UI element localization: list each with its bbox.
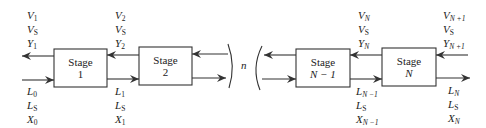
stage-n-minus-1-label: Stage N − 1 — [296, 56, 350, 80]
stage-n-title: Stage — [382, 55, 436, 67]
break-label-n: n — [241, 60, 247, 71]
stream-l1-labels: L1 LS X1 — [115, 86, 125, 128]
stage-2-number: 2 — [139, 66, 192, 78]
break-curve-right — [256, 46, 262, 90]
stream-lN-1-labels: LN −1 LS XN −1 — [356, 86, 378, 128]
stage-n-minus-1-number: N − 1 — [296, 68, 350, 80]
stage-1-title: Stage — [54, 56, 107, 68]
stage-2-label: Stage 2 — [139, 54, 192, 78]
stream-vN1-labels: VN +1 VS YN +1 — [443, 10, 465, 52]
stream-l0-labels: L0 LS X0 — [27, 86, 37, 128]
stream-lN-labels: LN LS XN — [448, 85, 460, 127]
stage-n-label: Stage N — [382, 55, 436, 79]
break-curve-left — [228, 44, 232, 88]
stage-2-title: Stage — [139, 54, 192, 66]
stage-n-minus-1-title: Stage — [296, 56, 350, 68]
stage-1-number: 1 — [54, 68, 107, 80]
stream-vN-labels: VN VS YN — [358, 10, 370, 52]
stage-n-number: N — [382, 67, 436, 79]
stage-1-label: Stage 1 — [54, 56, 107, 80]
stream-v2-labels: V2 VS Y2 — [115, 10, 126, 52]
stream-v1-labels: V1 VS Y1 — [27, 10, 38, 52]
